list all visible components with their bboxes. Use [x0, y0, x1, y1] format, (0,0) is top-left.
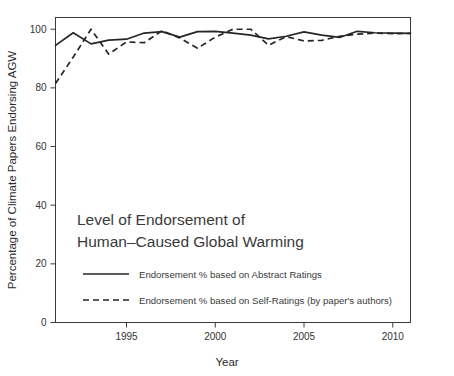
clipped-caption-row [0, 368, 454, 376]
y-tick-label: 80 [35, 82, 47, 93]
y-tick-label: 0 [41, 317, 47, 328]
y-axis-title: Percentage of Climate Papers Endorsing A… [6, 51, 18, 290]
x-tick-label: 1995 [115, 331, 138, 342]
x-axis-ticks: 1995200020052010 [115, 323, 404, 342]
line-chart: 020406080100 1995200020052010 Level of E… [0, 0, 454, 376]
y-tick-label: 20 [35, 258, 47, 269]
y-tick-label: 100 [30, 24, 47, 35]
legend-label-self-ratings: Endorsement % based on Self-Ratings (by … [139, 295, 392, 306]
y-axis-ticks: 020406080100 [30, 24, 56, 328]
legend-label-abstract-ratings: Endorsement % based on Abstract Ratings [139, 269, 322, 280]
y-tick-label: 40 [35, 200, 47, 211]
x-tick-label: 2010 [382, 331, 405, 342]
series-self-ratings-line [56, 29, 411, 83]
chart-title-line-1: Level of Endorsement of [77, 211, 246, 228]
figure-container: 020406080100 1995200020052010 Level of E… [0, 0, 454, 376]
x-tick-label: 2005 [293, 331, 316, 342]
chart-title-line-2: Human–Caused Global Warming [77, 233, 304, 250]
x-tick-label: 2000 [204, 331, 227, 342]
chart-legend: Endorsement % based on Abstract Ratings … [83, 269, 392, 306]
y-tick-label: 60 [35, 141, 47, 152]
x-axis-title: Year [215, 356, 238, 368]
